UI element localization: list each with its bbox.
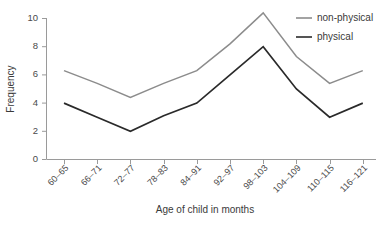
chart-legend: non-physical physical (296, 12, 373, 42)
x-tick-label-8: 110–115 (305, 163, 336, 194)
x-tick-label-2: 72–77 (112, 163, 137, 188)
y-tick-label-0: 0 (33, 153, 38, 164)
chart-container: 0 2 4 6 8 10 Frequency 60–6566–7172–7778… (0, 0, 384, 233)
y-tick-label-10: 10 (27, 12, 38, 23)
x-tick-label-3: 78–83 (145, 163, 170, 188)
x-tick-label-5: 92–97 (212, 163, 237, 188)
y-tick-label-4: 4 (33, 97, 38, 108)
x-axis-title: Age of child in months (156, 204, 254, 215)
y-tick-label-2: 2 (33, 125, 38, 136)
x-axis-tick-labels: 60–6566–7172–7778–8384–9192–9798–103104–… (46, 163, 370, 195)
x-tick-label-7: 104–109 (271, 163, 303, 195)
legend-label-non-physical: non-physical (317, 12, 373, 23)
x-tick-label-0: 60–65 (46, 163, 71, 188)
x-axis-ticks (65, 160, 364, 165)
series-line-non-physical (64, 13, 363, 98)
y-tick-label-6: 6 (33, 68, 38, 79)
x-tick-label-9: 116–121 (338, 163, 369, 194)
cropped-caption (0, 221, 384, 233)
y-axis-ticks: 0 2 4 6 8 10 (27, 12, 46, 164)
x-tick-label-6: 98–103 (241, 163, 269, 191)
y-tick-label-8: 8 (33, 40, 38, 51)
x-tick-label-4: 84–91 (178, 163, 203, 188)
line-chart: 0 2 4 6 8 10 Frequency 60–6566–7172–7778… (0, 0, 384, 233)
legend-label-physical: physical (317, 31, 353, 42)
y-axis-title: Frequency (5, 65, 16, 112)
x-tick-label-1: 66–71 (79, 163, 104, 188)
